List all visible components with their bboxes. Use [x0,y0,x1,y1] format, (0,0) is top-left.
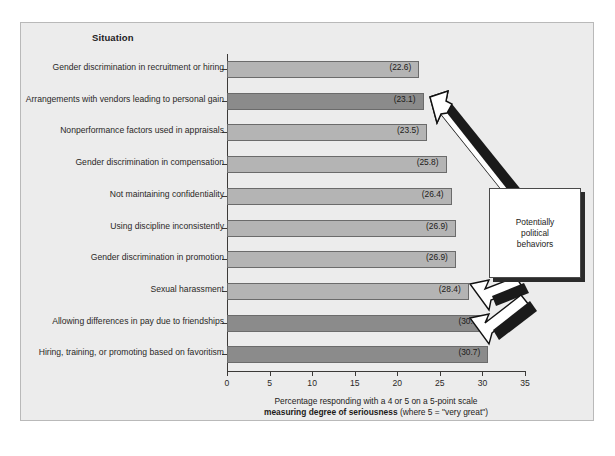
x-axis-tick [482,371,483,376]
callout-text: Potentially political behaviors [516,217,555,250]
bar [227,346,488,363]
category-label: Sexual harassment [150,284,224,294]
bar-row: Gender discrimination in recruitment or … [227,54,525,86]
bar-row: Nonperformance factors used in appraisal… [227,117,525,149]
bar-row: Arrangements with vendors leading to per… [227,86,525,118]
chart-screenshot: Situation Gender discrimination in recru… [0,0,615,456]
bar [227,251,456,268]
bar-row: Sexual harassment(28.4) [227,276,525,308]
bar-row: Not maintaining confidentiality(26.4) [227,181,525,213]
callout-line-2: political [521,228,549,238]
column-header-situation: Situation [92,32,134,43]
category-label: Gender discrimination in compensation [75,157,224,167]
x-axis-tick-label: 35 [520,378,530,388]
bar-value-label: (22.6) [389,62,411,72]
x-axis-tick-label: 5 [267,378,272,388]
bar-value-label: (23.5) [397,125,419,135]
callout-box: Potentially political behaviors [489,188,581,278]
bar-value-label: (30.7) [458,347,480,357]
x-axis-tick-label: 15 [350,378,360,388]
bar-value-label: (25.8) [417,157,439,167]
value-axis-line [227,371,525,372]
bar-value-label: (23.1) [394,94,416,104]
bar-value-label: (26.9) [426,252,448,262]
bar-row: Hiring, training, or promoting based on … [227,339,525,371]
bar [227,315,488,332]
category-label: Hiring, training, or promoting based on … [39,347,224,357]
x-axis-tick [355,371,356,376]
x-axis-tick [312,371,313,376]
callout-line-3: behaviors [517,239,553,249]
bar-row: Gender discrimination in promotion(26.9) [227,244,525,276]
bar [227,188,452,205]
bar [227,220,456,237]
x-axis-caption-line2-bold: measuring degree of seriousness [264,407,398,417]
bar-chart-plot-area: Gender discrimination in recruitment or … [227,54,525,371]
category-label: Nonperformance factors used in appraisal… [60,125,224,135]
bar-value-label: (26.4) [422,189,444,199]
bar-value-label: (28.4) [439,284,461,294]
bar-row: Gender discrimination in compensation(25… [227,149,525,181]
x-axis-tick [270,371,271,376]
category-label: Arrangements with vendors leading to per… [26,94,224,104]
callout-line-1: Potentially [516,217,555,227]
bar-value-label: (30.7) [458,316,480,326]
x-axis-tick-label: 10 [307,378,317,388]
category-label: Gender discrimination in promotion [91,252,224,262]
x-axis-tick-label: 25 [435,378,445,388]
bar [227,156,447,173]
bar-value-label: (26.9) [426,221,448,231]
category-label: Allowing differences in pay due to frien… [52,316,224,326]
x-axis-caption: Percentage responding with a 4 or 5 on a… [227,396,525,417]
x-axis-tick-label: 0 [225,378,230,388]
x-axis-caption-line1: Percentage responding with a 4 or 5 on a… [227,396,525,407]
category-label: Gender discrimination in recruitment or … [53,62,224,72]
category-label: Not maintaining confidentiality [110,189,224,199]
x-axis-caption-line2-rest: (where 5 = "very great") [398,407,488,417]
x-axis-tick-label: 30 [478,378,488,388]
x-axis-tick [440,371,441,376]
x-axis-tick [227,371,228,376]
bar-row: Allowing differences in pay due to frien… [227,308,525,340]
x-axis-tick-label: 20 [393,378,403,388]
bar [227,283,469,300]
x-axis-caption-line2: measuring degree of seriousness (where 5… [227,407,525,418]
bar-row: Using discipline inconsistently(26.9) [227,213,525,245]
x-axis-tick [397,371,398,376]
category-label: Using discipline inconsistently [110,221,224,231]
x-axis-tick [525,371,526,376]
